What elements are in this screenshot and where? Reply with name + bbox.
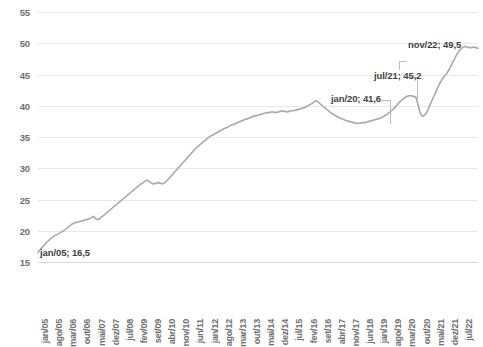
leader-line-nov22 (399, 61, 400, 70)
annotation-pre-covid-peak: jan/20; 41,6 (331, 93, 381, 104)
x-tick-label-jan-05: jan/05 (40, 319, 50, 343)
x-tick-label-abr-10: abr/10 (167, 319, 177, 344)
x-tick-label-fev-16: fev/16 (309, 319, 319, 343)
x-tick-label-mai-07: mai/07 (97, 319, 107, 346)
x-axis-labels: jan/05ago/05mar/06out/06mai/07dez/07jul/… (38, 264, 478, 322)
annotation-mid-point: jul/21; 45,2 (374, 70, 421, 81)
x-tick-label-ago-05: ago/05 (54, 319, 64, 346)
leader-line-jan20-h (381, 100, 391, 101)
x-tick-label-jul-15: jul/15 (294, 319, 304, 341)
x-tick-label-mar-06: mar/06 (68, 319, 78, 347)
x-tick-label-jan-12: jan/12 (210, 319, 220, 343)
x-tick-label-mar-13: mar/13 (238, 319, 248, 347)
x-tick-label-mai-21: mai/21 (436, 319, 446, 346)
x-tick-label-jul-22: jul/22 (464, 319, 474, 341)
x-tick-label-fev-09: fev/09 (139, 319, 149, 343)
x-tick-label-out-20: out/20 (422, 319, 432, 344)
x-tick-label-nov-10: nov/10 (181, 319, 191, 346)
x-tick-label-nov-17: nov/17 (351, 319, 361, 346)
x-tick-label-set-09: set/09 (153, 319, 163, 343)
annotation-start-point: jan/05; 16,5 (40, 247, 90, 258)
x-tick-label-dez-07: dez/07 (111, 319, 121, 345)
x-tick-label-dez-14: dez/14 (280, 319, 290, 345)
x-tick-label-ago-19: ago/19 (393, 319, 403, 346)
x-tick-label-ago-12: ago/12 (224, 319, 234, 346)
annotation-end-point: nov/22; 49,5 (408, 39, 461, 50)
x-tick-label-set-16: set/16 (323, 319, 333, 343)
leader-line-nov22-h (399, 61, 407, 62)
x-tick-label-dez-21: dez/21 (450, 319, 460, 345)
x-tick-label-out-13: out/13 (252, 319, 262, 344)
x-tick-label-jun-11: jun/11 (195, 319, 205, 343)
x-tick-label-out-06: out/06 (82, 319, 92, 344)
x-tick-label-abr-17: abr/17 (337, 319, 347, 344)
x-tick-label-jun-18: jun/18 (365, 319, 375, 344)
x-tick-label-jul-08: jul/08 (125, 319, 135, 341)
x-tick-label-mai-14: mai/14 (266, 319, 276, 346)
x-tick-label-mar-20: mar/20 (407, 319, 417, 347)
x-tick-label-jan-19: jan/19 (379, 319, 389, 343)
leader-line-jan20 (390, 100, 391, 124)
